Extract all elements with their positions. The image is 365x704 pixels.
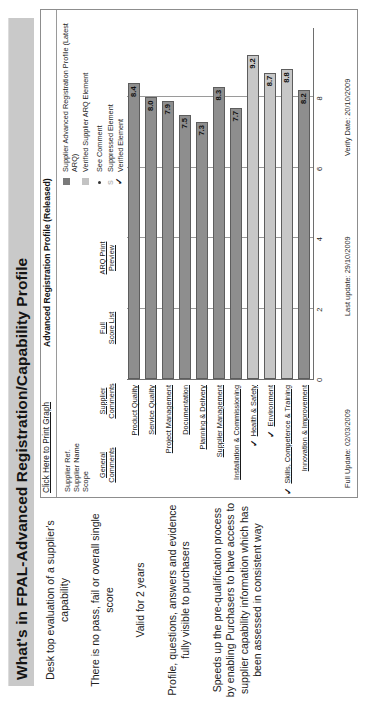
general-comments-link[interactable]: General Comments xyxy=(99,438,116,492)
bar-value-label: 7.7 xyxy=(230,111,242,122)
x-tick-label: 4 xyxy=(315,237,324,241)
chart-bar: 7.5 xyxy=(179,115,191,379)
chart-bar: 8.8 xyxy=(281,69,293,379)
bullet-item: There is no pass, fail or overall single… xyxy=(89,502,116,698)
x-tick-label: 6 xyxy=(315,167,324,171)
verified-check-icon: ✓ xyxy=(281,487,295,495)
page-title: What's in FPAL-Advanced Registration/Cap… xyxy=(8,18,34,686)
full-update-text: Full Update: 02/03/2009 xyxy=(343,409,352,488)
legend-label: Suppressed Element xyxy=(106,104,115,172)
bullet-item: Valid for 2 years xyxy=(134,502,148,698)
print-graph-link[interactable]: Click Here to Print Graph xyxy=(42,402,51,493)
chart-bar: 8.0 xyxy=(145,97,157,379)
legend-row-see-comment: See Comment xyxy=(95,13,104,185)
chart-bar: 8.3 xyxy=(213,87,225,379)
report-header: Click Here to Print Graph Advanced Regis… xyxy=(41,10,57,497)
chart-legend: Supplier Advanced Registration Profile (… xyxy=(61,13,126,185)
slide-canvas: What's in FPAL-Advanced Registration/Cap… xyxy=(0,0,365,704)
chart-bar: 7.3 xyxy=(196,122,208,379)
bar-value-label: 8.2 xyxy=(298,93,310,104)
supplier-comments-line2: Comments xyxy=(107,383,116,418)
comment-dot-icon xyxy=(98,181,101,184)
chart-category-labels: Product QualityService QualityProject Ma… xyxy=(127,382,313,492)
supplier-identity-block: Supplier Ref. Supplier Name Scope xyxy=(63,443,91,492)
bar-value-label: 8.7 xyxy=(264,76,276,87)
legend-row-verified: ✓ Verified Element xyxy=(116,13,125,185)
x-tick-label: 0 xyxy=(315,378,324,382)
category-label[interactable]: Environment xyxy=(264,385,278,427)
legend-label: See Comment xyxy=(95,125,104,172)
chart-bar: 8.7 xyxy=(264,73,276,379)
chart-bar: 9.2 xyxy=(247,55,259,379)
legend-row-suppressed: S Suppressed Element xyxy=(106,13,115,185)
legend-row-verified-arq: Verified Supplier ARQ Element xyxy=(81,13,90,185)
verified-check-icon: ✓ xyxy=(115,177,124,185)
category-label[interactable]: Service Quality xyxy=(145,385,159,435)
arq-print-preview-link[interactable]: ARQ Print Preview xyxy=(99,230,116,286)
chart-bar: 7.9 xyxy=(162,101,174,379)
bar-value-label: 7.9 xyxy=(162,104,174,115)
x-tick-label: 8 xyxy=(315,96,324,100)
category-label[interactable]: Innovation & Improvement xyxy=(298,385,312,471)
supplier-scope-label: Scope xyxy=(81,443,90,492)
x-tick-label: 2 xyxy=(315,308,324,312)
bullet-list: Desk top evaluation of a supplier's capa… xyxy=(44,502,344,698)
legend-row-latest-arq: Supplier Advanced Registration Profile (… xyxy=(61,13,80,185)
category-label[interactable]: Planning & Delivery xyxy=(196,385,210,450)
bullet-item: Desk top evaluation of a supplier's capa… xyxy=(44,502,71,698)
report-link-row: General Comments Supplier Comments Full … xyxy=(99,194,121,494)
bar-value-label: 8.0 xyxy=(145,100,157,111)
light-swatch-icon xyxy=(82,178,89,185)
category-label[interactable]: Skills, Competence & Training xyxy=(281,385,295,484)
verify-date-text: Verify Date: 20/10/2009 xyxy=(343,79,352,156)
report-header-title: Advanced Registration Profile (Released) xyxy=(42,178,52,347)
dark-swatch-icon xyxy=(63,178,70,185)
bar-value-label: 7.3 xyxy=(196,125,208,136)
full-score-list-link[interactable]: Full Score List xyxy=(99,302,116,354)
chart-x-axis: 02468 xyxy=(313,28,326,380)
general-comments-line2: Comments xyxy=(107,447,116,482)
arq-print-preview-line2: Preview xyxy=(107,245,116,271)
supplier-ref-label: Supplier Ref. xyxy=(63,443,72,492)
legend-label: Supplier Advanced Registration Profile (… xyxy=(61,23,79,172)
full-score-list-line2: Score List xyxy=(107,312,116,344)
supplier-name-label: Supplier Name xyxy=(72,443,81,492)
bar-value-label: 7.5 xyxy=(179,118,191,129)
capability-bar-chart: Product QualityService QualityProject Ma… xyxy=(127,14,335,492)
rotated-page-wrapper: What's in FPAL-Advanced Registration/Cap… xyxy=(0,0,365,704)
category-label[interactable]: Supplier Management xyxy=(213,385,227,457)
verified-check-icon: ✓ xyxy=(264,430,278,438)
bar-value-label: 8.4 xyxy=(128,86,140,97)
bullet-item: Profile, questions, answers and evidence… xyxy=(166,502,193,698)
bar-value-label: 9.2 xyxy=(247,58,259,69)
legend-label: Verified Element xyxy=(116,119,125,172)
supplier-comments-link[interactable]: Supplier Comments xyxy=(99,374,116,428)
category-label[interactable]: Documentation xyxy=(179,385,193,435)
category-label[interactable]: Installation & Commissioning xyxy=(230,385,244,480)
registration-profile-report: Click Here to Print Graph Advanced Regis… xyxy=(40,9,358,498)
category-label[interactable]: Product Quality xyxy=(128,385,142,436)
report-footer: Full Update: 02/03/2009 Last update: 29/… xyxy=(343,14,355,492)
legend-label: Verified Supplier ARQ Element xyxy=(81,73,90,172)
chart-plot-area: 8.48.07.97.57.38.37.79.28.78.88.2 xyxy=(127,28,313,380)
chart-bar: 7.7 xyxy=(230,108,242,379)
bullet-item: Speeds up the pre-qualification process … xyxy=(211,502,265,698)
verified-check-icon: ✓ xyxy=(247,439,261,447)
last-update-text: Last update: 29/10/2009 xyxy=(343,236,352,316)
bar-value-label: 8.8 xyxy=(281,72,293,83)
chart-bar: 8.2 xyxy=(298,90,310,379)
category-label[interactable]: Health & Safety xyxy=(247,385,261,436)
bar-value-label: 8.3 xyxy=(213,90,225,101)
chart-bar: 8.4 xyxy=(128,83,140,379)
category-label[interactable]: Project Management xyxy=(162,385,176,453)
